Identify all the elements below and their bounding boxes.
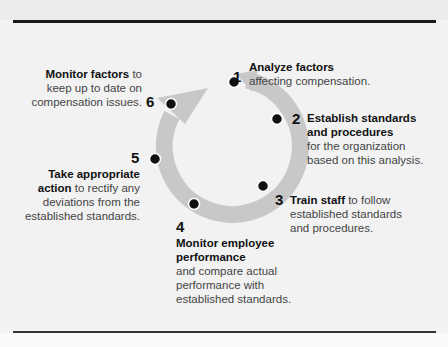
step-1-title: Analyze factors <box>249 61 334 73</box>
step-6-number: 6 <box>146 93 154 110</box>
step-3-body: established standards <box>290 207 402 221</box>
step-5-title-2: action <box>38 182 72 194</box>
step-4-body-2: performance with <box>176 278 291 292</box>
step-2-number: 2 <box>292 110 300 127</box>
step-2-title-2: and procedures <box>307 126 393 138</box>
step-4-title: Monitor employee <box>176 237 274 249</box>
step-3-body-2: and procedures. <box>290 221 402 235</box>
step-1-text: Analyze factors affecting compensation. <box>249 60 370 88</box>
step-4-text: Monitor employee performance and compare… <box>176 236 291 306</box>
step-2-text: Establish standards and procedures for t… <box>307 111 423 167</box>
step-6-body: keep up to date on <box>20 81 142 95</box>
step-5-body-2: established standards. <box>20 209 140 223</box>
step-4-body: and compare actual <box>176 264 291 278</box>
step-5-number: 5 <box>131 149 139 166</box>
step-3-text: Train staff to follow established standa… <box>290 193 402 235</box>
step-2-body: for the organization <box>307 139 423 153</box>
step-4-body-3: established standards. <box>176 292 291 306</box>
step-5-inline: to rectify any <box>72 182 140 194</box>
step-5-title: Take appropriate <box>48 168 140 180</box>
step-1-number: 1 <box>233 68 241 85</box>
step-2-title: Establish standards <box>307 112 416 124</box>
step-1-body: affecting compensation. <box>249 74 370 88</box>
step-3-inline: to follow <box>345 194 390 206</box>
step-4-title-2: performance <box>176 251 246 263</box>
step-4-number: 4 <box>176 218 184 235</box>
step-3-number: 3 <box>275 191 283 208</box>
dot-6 <box>166 99 177 110</box>
step-3-title: Train staff <box>290 194 345 206</box>
step-6-inline: to <box>129 68 142 80</box>
step-5-text: Take appropriate action to rectify any d… <box>20 167 140 223</box>
step-6-text: Monitor factors to keep up to date on co… <box>20 67 142 109</box>
step-6-body-2: compensation issues. <box>20 95 142 109</box>
dot-5 <box>150 154 161 165</box>
dot-3 <box>258 181 269 192</box>
footer-band <box>0 333 448 347</box>
dot-2 <box>272 114 283 125</box>
step-6-title: Monitor factors <box>46 68 130 80</box>
step-5-body: deviations from the <box>20 195 140 209</box>
dot-4 <box>189 199 200 210</box>
step-2-body-2: based on this analysis. <box>307 153 423 167</box>
